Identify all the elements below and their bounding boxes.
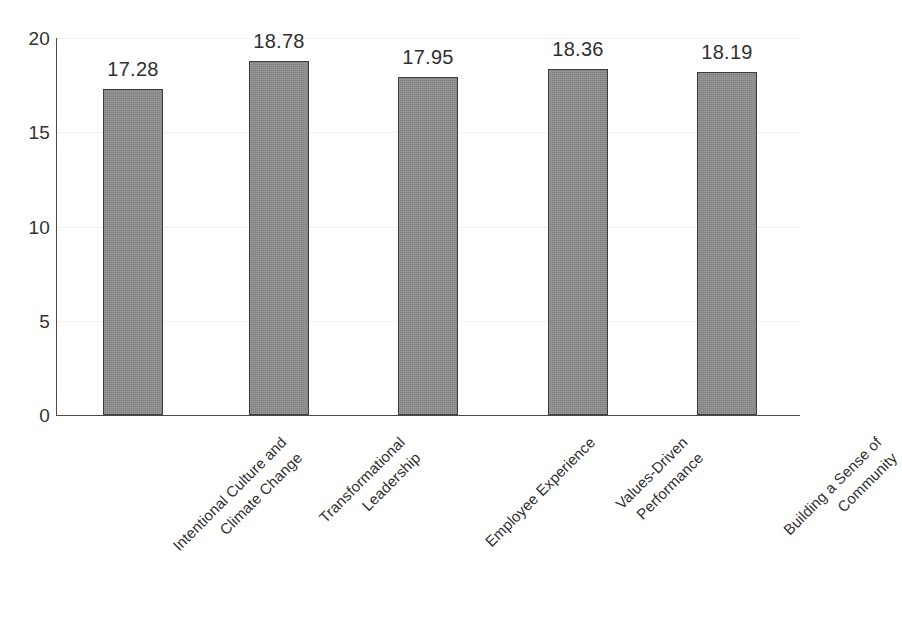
bar-value-label-5: 18.19 (701, 42, 753, 62)
x-category-label-line: Employee Experience (480, 432, 600, 552)
bar-value-label-3: 17.95 (402, 47, 454, 67)
x-category-label-intentional-culture-and-climate-change: Intentional Culture and Climate Change (168, 432, 307, 571)
bar-intentional-culture-and-climate-change[interactable] (103, 89, 163, 415)
bar-values-driven-performance[interactable] (548, 69, 608, 415)
bar-employee-experience[interactable] (398, 77, 458, 415)
y-tick-5: 5 (4, 311, 50, 330)
x-category-label-employee-experience: Employee Experience (480, 432, 600, 552)
x-category-label-values-driven-performance: Values-Driven Performance (611, 432, 709, 530)
x-category-label-transformational-leadership: Transformational Leadership (314, 432, 425, 543)
y-tick-20: 20 (4, 29, 50, 48)
bar-building-a-sense-of-community[interactable] (697, 72, 757, 415)
x-axis-line (56, 415, 800, 416)
y-axis-line (56, 38, 57, 416)
bar-value-label-1: 17.28 (107, 59, 159, 79)
x-category-label-building-a-sense-of-community: Building a Sense of Community (778, 432, 902, 556)
bar-value-label-4: 18.36 (552, 39, 604, 59)
y-tick-15: 15 (4, 123, 50, 142)
bar-value-label-2: 18.78 (253, 31, 305, 51)
y-tick-10: 10 (4, 217, 50, 236)
y-axis-tick-labels: 20 15 10 5 0 (0, 0, 50, 625)
gridline-20 (57, 38, 800, 39)
y-tick-0: 0 (4, 406, 50, 425)
plot-area (57, 38, 800, 415)
bar-transformational-leadership[interactable] (249, 61, 309, 415)
